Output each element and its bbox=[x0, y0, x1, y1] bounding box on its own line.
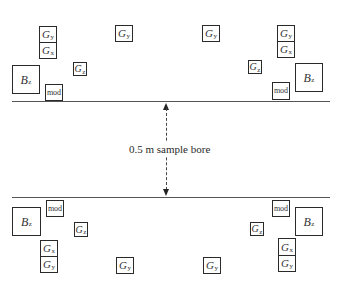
coil-gy-bottom-center-right: Gy bbox=[203, 257, 221, 274]
coil-gz-bottom-right: Gz bbox=[250, 222, 264, 236]
magnet-coil-cross-section-diagram: Gy Gx Gz Bz mod Gy Gy Gy Gx Gz Bz mod 0.… bbox=[0, 0, 340, 292]
coil-gy-bottom-center-left: Gy bbox=[116, 257, 134, 274]
coil-mod-bottom-right: mod bbox=[272, 200, 290, 217]
arrow-down-icon bbox=[163, 189, 169, 196]
coil-mod-bottom-left: mod bbox=[46, 200, 64, 217]
coil-mod-top-right: mod bbox=[272, 82, 290, 100]
coil-bz-bottom-right: Bz bbox=[295, 207, 323, 236]
coil-gy-bottom-left: Gy bbox=[40, 256, 58, 273]
coil-gy-top-left: Gy bbox=[39, 26, 57, 43]
coil-gx-bottom-left: Gx bbox=[40, 240, 58, 257]
coil-gy-top-center-right: Gy bbox=[202, 25, 220, 42]
bore-upper-boundary-line bbox=[12, 101, 330, 102]
coil-gy-top-center-left: Gy bbox=[115, 25, 133, 42]
coil-gx-bottom-right: Gx bbox=[278, 238, 296, 256]
coil-bz-bottom-left: Bz bbox=[12, 207, 41, 236]
coil-bz-top-right: Bz bbox=[295, 63, 323, 92]
coil-gz-top-right: Gz bbox=[248, 60, 262, 74]
coil-bz-top-left: Bz bbox=[12, 65, 40, 94]
bore-lower-boundary-line bbox=[12, 197, 330, 198]
coil-gy-bottom-right: Gy bbox=[278, 255, 296, 272]
coil-gy-top-right: Gy bbox=[277, 25, 295, 42]
coil-mod-top-left: mod bbox=[45, 84, 63, 101]
coil-gx-top-right: Gx bbox=[277, 41, 295, 58]
coil-gx-top-left: Gx bbox=[39, 42, 57, 59]
sample-bore-label: 0.5 m sample bore bbox=[127, 142, 212, 156]
coil-gz-top-left: Gz bbox=[73, 62, 87, 76]
coil-gz-bottom-left: Gz bbox=[74, 222, 88, 237]
